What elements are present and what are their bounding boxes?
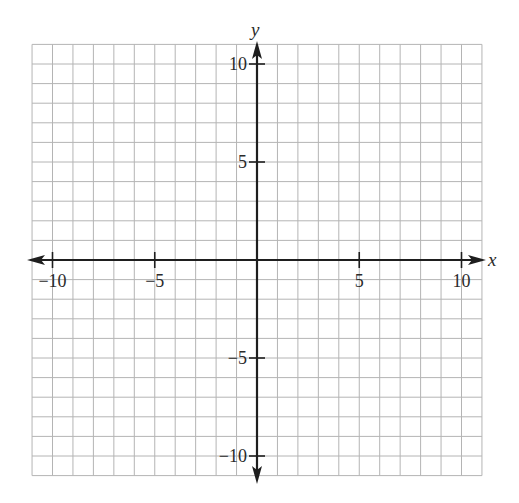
x-tick-label: 10 <box>453 271 471 291</box>
x-tick-label: −10 <box>38 271 66 291</box>
y-tick-label: 5 <box>238 152 247 172</box>
y-axis-label: y <box>249 19 260 40</box>
axes <box>27 41 486 484</box>
x-tick-label: −5 <box>145 271 164 291</box>
x-tick-label: 5 <box>355 271 364 291</box>
x-axis-label: x <box>487 249 497 270</box>
y-tick-label: 10 <box>229 54 247 74</box>
y-tick-label: −10 <box>219 446 247 466</box>
coordinate-plane: −10−5510−10−5510 x y <box>0 0 519 503</box>
y-tick-label: −5 <box>228 348 247 368</box>
